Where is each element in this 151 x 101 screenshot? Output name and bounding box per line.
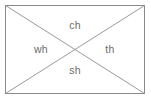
diagram-canvas <box>0 0 151 101</box>
region-label-top: ch <box>69 20 81 31</box>
digraph-diagram: ch wh th sh <box>0 0 151 101</box>
region-label-bottom: sh <box>69 65 81 76</box>
region-label-left: wh <box>34 44 48 55</box>
region-label-right: th <box>105 44 114 55</box>
